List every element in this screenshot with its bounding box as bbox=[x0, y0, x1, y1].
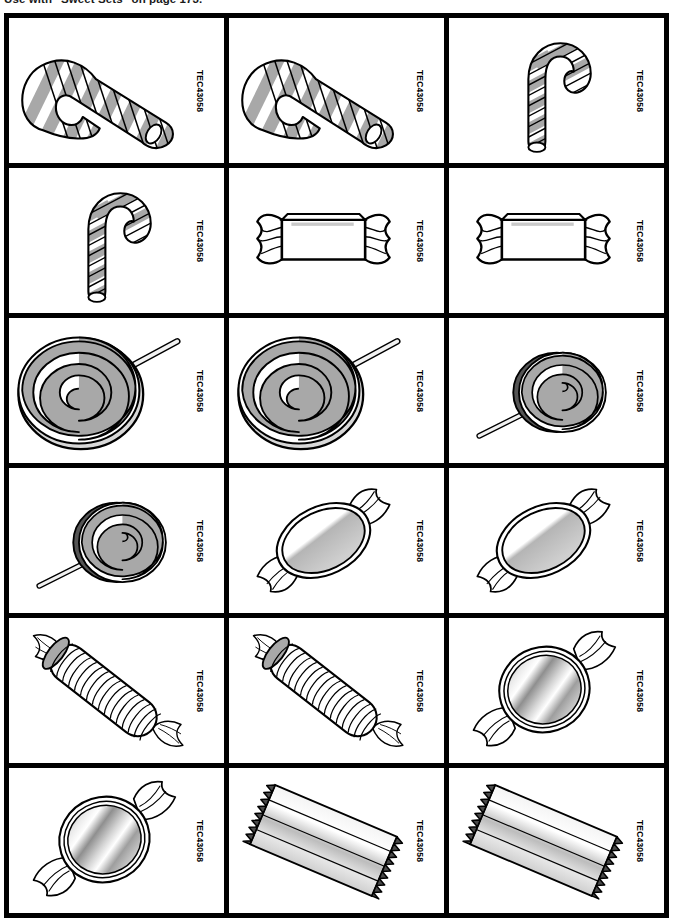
foil-candy-icon bbox=[9, 768, 198, 913]
wrapped-candy-icon bbox=[449, 468, 638, 613]
card-code-label: TEC43058 bbox=[635, 519, 645, 561]
card-cell[interactable]: TEC43058 bbox=[9, 168, 229, 318]
candy-cane-icon bbox=[229, 18, 418, 163]
candy-cane-icon bbox=[9, 18, 198, 163]
card-code-label: TEC43058 bbox=[415, 69, 425, 111]
card-code-label: TEC43058 bbox=[195, 219, 205, 261]
card-cell[interactable]: TEC43058 bbox=[229, 768, 449, 918]
card-code-label: TEC43058 bbox=[415, 819, 425, 861]
candy-bar-icon bbox=[229, 768, 418, 913]
roll-candy-icon bbox=[229, 618, 418, 763]
wrapped-candy-icon bbox=[449, 168, 638, 313]
card-cell[interactable]: TEC43058 bbox=[9, 318, 229, 468]
card-code-label: TEC43058 bbox=[635, 219, 645, 261]
page-caption: Use with "Sweet Sets" on page 173. bbox=[4, 0, 202, 6]
card-cell[interactable]: TEC43058 bbox=[9, 18, 229, 168]
candy-bar-icon bbox=[449, 768, 638, 913]
wrapped-candy-icon bbox=[229, 468, 418, 613]
candy-cane-icon bbox=[9, 168, 198, 313]
card-code-label: TEC43058 bbox=[195, 669, 205, 711]
card-cell[interactable]: TEC43058 bbox=[449, 18, 669, 168]
lollipop-icon bbox=[9, 468, 198, 613]
card-code-label: TEC43058 bbox=[195, 69, 205, 111]
card-cell[interactable]: TEC43058 bbox=[229, 468, 449, 618]
card-code-label: TEC43058 bbox=[635, 69, 645, 111]
card-code-label: TEC43058 bbox=[415, 669, 425, 711]
card-code-label: TEC43058 bbox=[415, 369, 425, 411]
foil-candy-icon bbox=[449, 618, 638, 763]
candy-card-grid: TEC43058 bbox=[4, 13, 669, 918]
card-code-label: TEC43058 bbox=[415, 519, 425, 561]
card-cell[interactable]: TEC43058 bbox=[229, 318, 449, 468]
roll-candy-icon bbox=[9, 618, 198, 763]
lollipop-icon bbox=[229, 318, 418, 463]
card-code-label: TEC43058 bbox=[635, 819, 645, 861]
card-cell[interactable]: TEC43058 bbox=[229, 168, 449, 318]
card-cell[interactable]: TEC43058 bbox=[449, 768, 669, 918]
card-cell[interactable]: TEC43058 bbox=[449, 618, 669, 768]
wrapped-candy-icon bbox=[229, 168, 418, 313]
card-code-label: TEC43058 bbox=[195, 519, 205, 561]
candy-cane-icon bbox=[449, 18, 638, 163]
lollipop-icon bbox=[449, 318, 638, 463]
card-cell[interactable]: TEC43058 bbox=[449, 318, 669, 468]
card-cell[interactable]: TEC43058 bbox=[9, 768, 229, 918]
card-code-label: TEC43058 bbox=[635, 669, 645, 711]
card-code-label: TEC43058 bbox=[635, 369, 645, 411]
card-cell[interactable]: TEC43058 bbox=[9, 618, 229, 768]
card-cell[interactable]: TEC43058 bbox=[449, 468, 669, 618]
lollipop-icon bbox=[9, 318, 198, 463]
card-code-label: TEC43058 bbox=[195, 369, 205, 411]
card-code-label: TEC43058 bbox=[195, 819, 205, 861]
card-cell[interactable]: TEC43058 bbox=[229, 18, 449, 168]
card-cell[interactable]: TEC43058 bbox=[9, 468, 229, 618]
card-cell[interactable]: TEC43058 bbox=[229, 618, 449, 768]
card-cell[interactable]: TEC43058 bbox=[449, 168, 669, 318]
card-code-label: TEC43058 bbox=[415, 219, 425, 261]
